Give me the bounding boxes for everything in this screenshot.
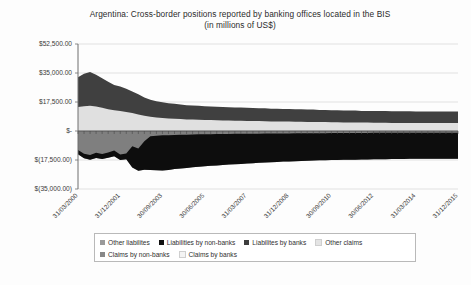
x-axis-tick-label: 31/03/2007 bbox=[220, 191, 248, 219]
y-axis-tick-labels: $52,500.00$35,000.00$17,500.00$-$(17,500… bbox=[35, 40, 73, 193]
legend-swatch-icon bbox=[100, 240, 105, 245]
x-axis-tick-label: 30/06/2012 bbox=[347, 191, 375, 219]
legend-item[interactable]: Liabilities by non-banks bbox=[159, 239, 236, 247]
y-axis-tick-label: $- bbox=[66, 127, 72, 134]
legend-item[interactable]: Other liabilites bbox=[100, 239, 150, 247]
x-axis-tick-label: 31/12/2001 bbox=[93, 191, 121, 219]
x-axis-tick-label: 31/12/2015 bbox=[431, 191, 459, 219]
x-axis-tick-label: 31/03/2000 bbox=[51, 191, 79, 219]
y-axis-tick-label: $(35,000.00) bbox=[35, 185, 72, 193]
legend-label: Claims by banks bbox=[189, 251, 237, 259]
legend-swatch-icon bbox=[315, 239, 322, 246]
legend-row-2: Claims by non-banksClaims by banks bbox=[100, 249, 410, 260]
y-axis-tick-label: $52,500.00 bbox=[39, 40, 72, 47]
x-axis-tick-label: 31/03/2014 bbox=[389, 191, 417, 219]
series-group bbox=[78, 72, 458, 171]
legend-swatch-icon bbox=[244, 240, 249, 245]
chart-legend: Other liabilitesLiabilities by non-banks… bbox=[94, 233, 416, 262]
y-axis-tick-label: $(17,500.00) bbox=[35, 156, 72, 164]
legend-swatch-icon bbox=[100, 252, 105, 257]
legend-item[interactable]: Other claims bbox=[315, 239, 362, 247]
y-axis-tick-label: $35,000.00 bbox=[39, 69, 72, 76]
legend-item[interactable]: Liabilites by banks bbox=[244, 239, 306, 247]
x-axis-tick-label: 30/06/2005 bbox=[178, 191, 206, 219]
legend-label: Other claims bbox=[325, 239, 362, 247]
legend-swatch-icon bbox=[179, 251, 186, 258]
x-axis-tick-label: 30/09/2010 bbox=[304, 191, 332, 219]
x-axis-tick-label: 31/12/2008 bbox=[262, 191, 290, 219]
area-chart-svg: $52,500.00$35,000.00$17,500.00$-$(17,500… bbox=[0, 0, 471, 230]
chart-container: Argentina: Cross-border positions report… bbox=[0, 0, 471, 285]
legend-label: Other liabilites bbox=[108, 239, 150, 247]
plot-area: $52,500.00$35,000.00$17,500.00$-$(17,500… bbox=[0, 0, 471, 230]
legend-item[interactable]: Claims by non-banks bbox=[100, 251, 170, 259]
legend-row-1: Other liabilitesLiabilities by non-banks… bbox=[100, 237, 410, 248]
legend-label: Claims by non-banks bbox=[108, 251, 170, 259]
legend-label: Liabilities by non-banks bbox=[167, 239, 236, 247]
legend-item[interactable]: Claims by banks bbox=[179, 251, 237, 259]
x-axis-tick-label: 30/09/2003 bbox=[136, 191, 164, 219]
legend-swatch-icon bbox=[159, 240, 164, 245]
x-axis-tick-labels: 31/03/200031/12/200130/09/200330/06/2005… bbox=[51, 191, 459, 219]
legend-label: Liabilites by banks bbox=[252, 239, 306, 247]
y-axis-tick-label: $17,500.00 bbox=[39, 98, 72, 105]
